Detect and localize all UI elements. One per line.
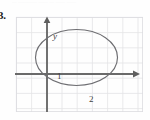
plot-area: y x 1 2	[16, 17, 143, 112]
graph-layer	[16, 17, 143, 112]
page-bleed-text: — ———— —— — —— ——	[12, 0, 134, 4]
y-axis-label: y	[53, 32, 57, 41]
exercise-number-label: 3.	[0, 10, 6, 21]
y-axis	[44, 17, 51, 113]
figure-container: — ———— —— — —— —— 3.	[0, 0, 150, 120]
tick-label-x-intercept: 2	[89, 95, 94, 104]
x-axis	[15, 71, 140, 78]
tick-label-y-intercept: 1	[57, 72, 62, 81]
